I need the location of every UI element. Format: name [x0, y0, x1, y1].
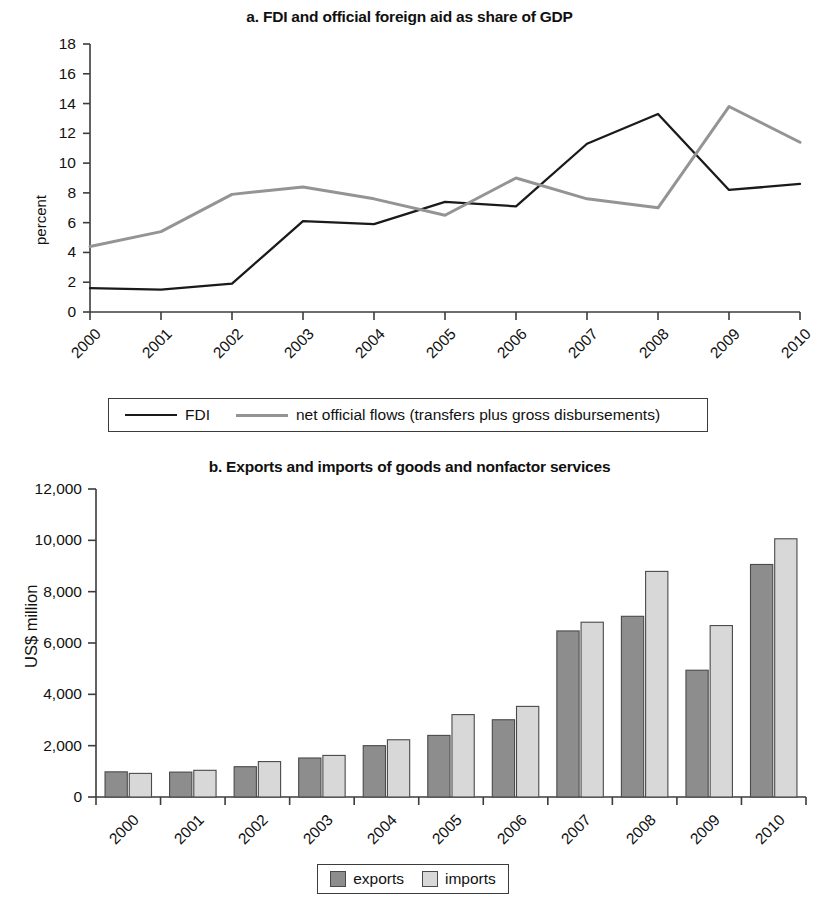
panel-b-chart-exports-imports: US$ million 02,0004,0006,0008,00010,0001… [0, 478, 819, 898]
legend-swatch-icon [330, 871, 346, 887]
legend-swatch-icon [422, 871, 438, 887]
panel-a-legend-item: FDI [125, 406, 210, 424]
panel-b-legend: exportsimports [317, 864, 509, 894]
panel-a-legend: FDInet official flows (transfers plus gr… [108, 398, 708, 432]
panel-b-title: b. Exports and imports of goods and nonf… [0, 458, 819, 476]
panel-a-title: a. FDI and official foreign aid as share… [0, 8, 819, 26]
panel-a-legend-label: FDI [185, 406, 210, 424]
panel-b-legend-item: exports [330, 870, 404, 888]
panel-b-legend-label: imports [445, 870, 496, 888]
panel-a-plot-area [0, 30, 819, 440]
figure-root: a. FDI and official foreign aid as share… [0, 0, 819, 898]
panel-a-chart-fdi-aid: percent 024681012141618 2000200120022003… [0, 30, 819, 440]
panel-b-plot-area [0, 478, 819, 898]
panel-b-legend-label: exports [353, 870, 404, 888]
legend-line-icon [125, 414, 177, 416]
legend-line-icon [236, 414, 288, 417]
panel-b-legend-item: imports [422, 870, 496, 888]
panel-a-legend-label: net official flows (transfers plus gross… [296, 406, 660, 424]
panel-a-legend-item: net official flows (transfers plus gross… [236, 406, 660, 424]
